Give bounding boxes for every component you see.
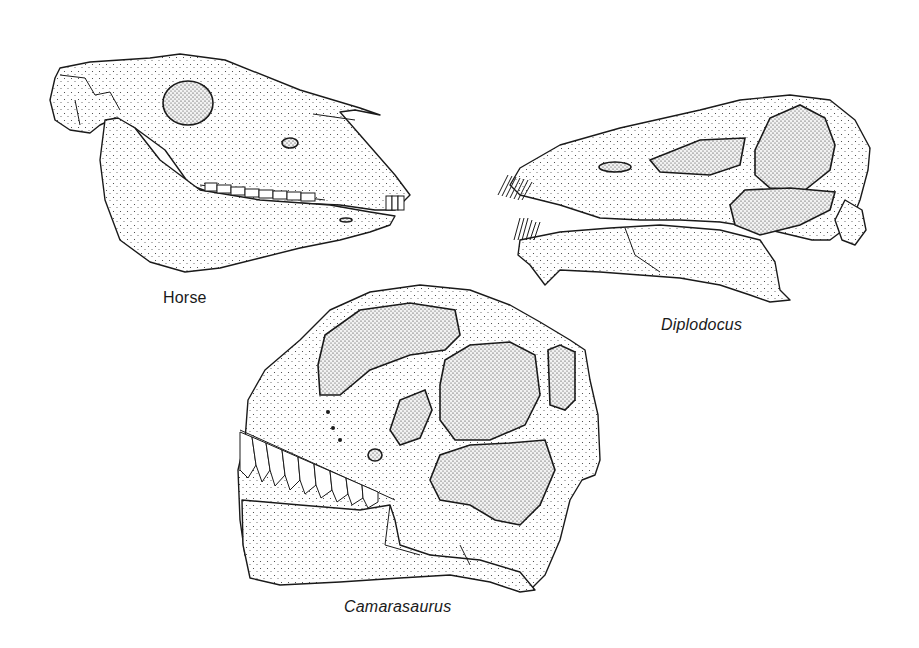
skull-comparison-figure: Horse Diplodocus Camarasaurus [0,0,919,648]
horse-skull [50,54,410,272]
skull-drawings [0,0,919,648]
horse-label: Horse [163,289,207,307]
camarasaurus-label: Camarasaurus [344,598,451,616]
diplodocus-skull [498,95,870,302]
diplodocus-label: Diplodocus [661,316,742,334]
camarasaurus-skull [238,285,600,592]
